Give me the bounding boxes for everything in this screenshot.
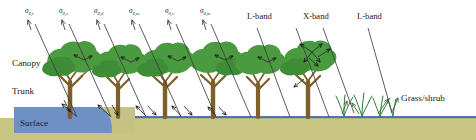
feature-label-grass-shrub: Grass/shrub — [401, 93, 445, 103]
shore-slope-2 — [108, 117, 476, 140]
gs-3 — [378, 99, 388, 114]
scatter-label-s0m2: σ0,m — [200, 7, 211, 17]
sc-t5-b — [219, 107, 226, 115]
band-label-x: X-band — [303, 11, 329, 21]
layer-label-trunk: Trunk — [12, 86, 35, 96]
ray-10 — [368, 28, 392, 113]
tree-4 — [190, 41, 246, 117]
tree-5-trunk — [247, 72, 269, 117]
bs-arrow-6 — [203, 20, 206, 30]
tree-1-crown-b — [42, 57, 75, 77]
bs-arrow-2 — [62, 20, 65, 30]
bs-arrow-3 — [97, 20, 100, 30]
sc-t3-a — [136, 106, 146, 116]
scatter-label-s0c: σ0,c — [165, 7, 174, 17]
scatter-label-group: σ0,t σ0,s σ0,d σ0,m σ0,c σ0,m — [25, 7, 211, 17]
bs-arrow-1 — [28, 20, 31, 30]
band-label-l-left: L-band — [247, 11, 273, 21]
grass-tuft-2 — [354, 93, 372, 116]
tree-6 — [280, 40, 336, 117]
radar-scattering-diagram: σ0,t σ0,s σ0,d σ0,m σ0,c σ0,m L-band X-b… — [0, 0, 476, 140]
sc-t3-b — [148, 106, 156, 115]
layer-label-surface: Surface — [20, 118, 48, 128]
tree-6-trunk — [290, 69, 320, 117]
scatter-label-s0d: σ0,d — [94, 7, 104, 17]
band-label-l-right: L-band — [357, 11, 383, 21]
scatter-label-s0s: σ0,s — [59, 7, 68, 17]
sc-x-g — [294, 79, 304, 87]
gs-4 — [392, 98, 398, 112]
ray-9 — [323, 28, 354, 113]
tree-2 — [92, 44, 146, 117]
layer-label-canopy: Canopy — [12, 58, 41, 68]
tree-5-crown — [235, 45, 285, 75]
grass-tuft-1 — [336, 95, 353, 116]
backscatter-arrows — [28, 20, 206, 30]
bs-arrow-5 — [168, 20, 171, 30]
grass-tuft-3 — [373, 96, 390, 116]
tree-5 — [235, 45, 285, 117]
diagram-canvas: σ0,t σ0,s σ0,d σ0,m σ0,c σ0,m L-band X-b… — [0, 0, 476, 140]
bs-arrow-4 — [132, 20, 135, 30]
scatter-label-s0m1: σ0,m — [129, 7, 140, 17]
sc-t4-b — [184, 106, 192, 115]
scatter-label-s0t: σ0,t — [25, 7, 34, 17]
tree-3 — [137, 42, 194, 117]
